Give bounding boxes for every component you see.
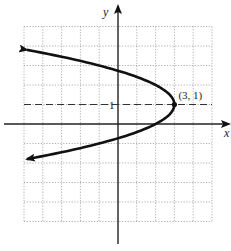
parabola-graph: (3, 1) 1 x y: [0, 0, 231, 251]
y-axis-label: y: [102, 5, 109, 19]
axes: [4, 6, 229, 244]
vertex-label: (3, 1): [178, 89, 202, 102]
y-tick-label: 1: [109, 99, 115, 111]
vertex-point: [172, 102, 177, 107]
x-axis-label: x: [223, 126, 230, 140]
